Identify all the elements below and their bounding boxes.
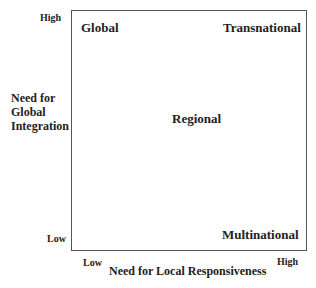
- y-axis-high-label: High: [40, 12, 61, 23]
- quadrant-transnational: Transnational: [223, 20, 301, 36]
- x-axis-low-label: Low: [83, 257, 102, 268]
- y-axis-title-line-1: Need for: [11, 91, 55, 105]
- matrix-frame: [71, 10, 307, 251]
- y-axis-title-line-3: Integration: [11, 119, 69, 133]
- quadrant-global: Global: [81, 20, 119, 36]
- x-axis-high-label: High: [277, 256, 298, 267]
- y-axis-title-line-2: Global: [11, 105, 46, 119]
- y-axis-low-label: Low: [47, 233, 66, 244]
- x-axis-title: Need for Local Responsiveness: [109, 264, 266, 278]
- quadrant-regional: Regional: [172, 111, 221, 127]
- quadrant-multinational: Multinational: [222, 227, 299, 243]
